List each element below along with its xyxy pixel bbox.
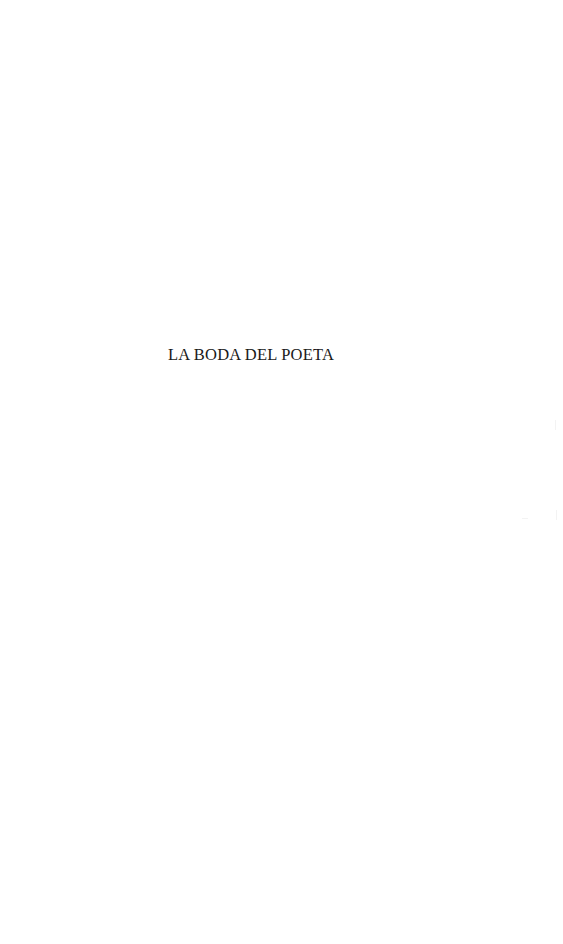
scan-artifact xyxy=(556,510,557,520)
half-title: LA BODA DEL POETA xyxy=(168,345,334,365)
book-page: LA BODA DEL POETA xyxy=(0,0,563,944)
scan-artifact xyxy=(555,420,556,430)
scan-artifact xyxy=(522,518,528,519)
